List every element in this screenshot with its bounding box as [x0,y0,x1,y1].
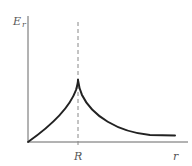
field-curve-inside [28,80,78,142]
x-tick-label-R: R [73,150,82,163]
x-axis-label: r [173,150,179,163]
field-curve-outside [78,80,175,136]
y-axis-label: Er [12,15,27,29]
y-axis-label-sub: r [22,20,27,29]
y-axis-label-main: E [12,15,21,28]
field-vs-radius-diagram: Er R r [0,0,192,166]
